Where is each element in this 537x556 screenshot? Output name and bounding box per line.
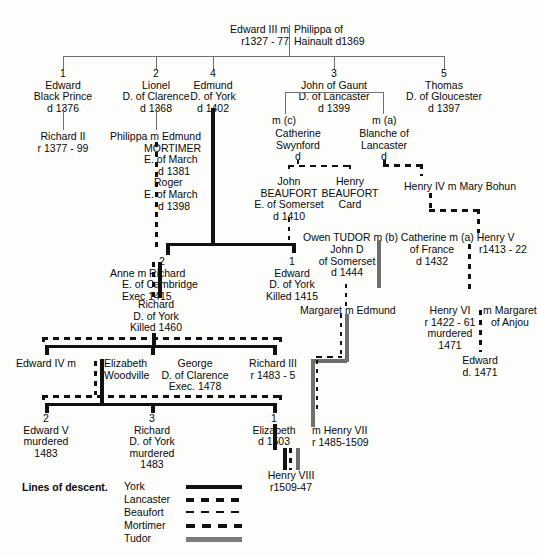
- legend-label-beaufort: Beaufort: [124, 506, 164, 518]
- line-york-edmund-descent: [211, 108, 215, 245]
- legend-title: Lines of descent.: [22, 481, 108, 493]
- node-henry-v: r1413 - 22: [472, 244, 534, 256]
- york-drop-edward-iv: [45, 345, 49, 355]
- line-lancaster-edwardiv-marriage: [94, 361, 97, 395]
- node-edward-iv: Edward IV m: [16, 358, 100, 370]
- node-edward-black-prince-l1: Edward: [45, 79, 81, 91]
- node-henry-vii-l1: m Henry VII: [312, 424, 367, 436]
- beaufort-drop-john: [288, 165, 290, 173]
- node-philippa-mortimer-l7: d 1398: [110, 200, 190, 212]
- root-stem: [289, 49, 290, 57]
- york-stem-richard-to-children: [152, 333, 156, 347]
- node-henry-v-l2: r1413 - 22: [479, 243, 527, 255]
- node-henry-vi: Henry VI r 1422 - 61 murdered 1471: [414, 305, 486, 351]
- line-beaufort-to-somerset: [288, 218, 290, 246]
- legend-sample-york: [186, 485, 242, 489]
- legend-sample-tudor: [186, 537, 242, 542]
- node-henry-beaufort: Henry BEAUFORT Card: [315, 176, 385, 211]
- node-edmund-l2: D. of York: [190, 90, 236, 102]
- node-henry-beaufort-l3: Card: [339, 198, 362, 210]
- line-york-to-henry-viii: [283, 448, 287, 470]
- node-john-of-gaunt-l3: d 1399: [318, 102, 350, 114]
- node-richard-york-1460-l2: D. of York: [133, 310, 179, 322]
- node-henry-vii-l2: r 1485-1509: [312, 436, 369, 448]
- line-lancaster-to-henry-vi: [468, 244, 471, 294]
- node-lionel-l1: Lionel: [142, 79, 170, 91]
- genealogy-chart: Edward III m r1327 - 77 Philippa of Hain…: [0, 0, 537, 556]
- line-beaufort-margaret-down: [340, 314, 342, 358]
- node-edward-york-l1: Edward: [274, 267, 310, 279]
- node-george-l2: D. of Clarence: [161, 369, 228, 381]
- node-john-somerset-l2: of Somerset: [319, 255, 376, 267]
- node-edward-v-l2: murdered: [24, 435, 69, 447]
- root-marriage-line: [289, 25, 290, 49]
- node-henry-iv-mary-bohun: Henry IV m Mary Bohun: [404, 181, 534, 193]
- node-margaret-anjou-l2: of Anjou: [483, 316, 529, 328]
- gaunt-marriage-bar: [285, 92, 383, 93]
- node-catherine-of-france: of France d 1432: [398, 244, 466, 267]
- node-richard-york-1460-l3: Killed 1460: [130, 321, 182, 333]
- node-henry-vi-l4: 1471: [438, 339, 461, 351]
- node-richard-ym-l3: murdered: [130, 447, 175, 459]
- node-john-beaufort-l2: BEAUFORT: [261, 187, 318, 199]
- lancaster-drop-henry-v: [477, 209, 480, 233]
- lancaster-drop-henry-iv: [420, 164, 423, 176]
- node-catherine-swynford: Catherine Swynford d: [262, 128, 334, 163]
- node-henry-viii: Henry VIII r1509-47: [252, 470, 330, 493]
- lancaster-bar-to-henry-iv: [383, 164, 423, 167]
- node-edward-iv-text: Edward IV m: [16, 357, 76, 369]
- legend-sample-mortimer: [186, 524, 242, 528]
- node-philippa-hainault: Philippa of Hainault d1369: [294, 24, 390, 47]
- beaufort-sibling-bar: [288, 165, 351, 167]
- node-richard-iii-l2: r 1483 - 5: [251, 369, 296, 381]
- line-beaufort-turn: [316, 356, 342, 358]
- node-john-duke-somerset: John D of Somerset d 1444: [310, 244, 384, 279]
- node-george-l3: Exec. 1478: [169, 380, 222, 392]
- node-edward-v: 2 Edward V murdered 1483: [12, 413, 80, 459]
- node-henry-beaufort-l2: BEAUFORT: [322, 187, 379, 199]
- node-blanche-lancaster: Blanche of Lancaster d: [348, 128, 420, 163]
- node-edward-black-prince-l2: Black Prince: [34, 90, 92, 102]
- legend-sample-beaufort: [186, 511, 242, 513]
- node-john-somerset-l1: John D: [330, 243, 363, 255]
- legend-sample-lancaster: [186, 498, 242, 502]
- node-edward-1471-l2: d. 1471: [462, 366, 497, 378]
- line-tudor-owen-descent: [377, 240, 381, 288]
- node-richard-york-murdered: 3 Richard D. of York murdered 1483: [112, 413, 192, 471]
- line-mortimer-descent: [155, 142, 158, 250]
- node-catherine-france-l3: d 1432: [416, 255, 448, 267]
- node-george-l1: George: [177, 357, 212, 369]
- node-anne-richard-cambridge: 2 Anne m Richard E. of Cambridge Exec 14…: [110, 256, 228, 302]
- gen2-sibling-bar: [63, 56, 445, 57]
- york-sibling-bar-edwardv-row: [45, 403, 277, 406]
- york-drop-edward: [292, 243, 296, 253]
- node-henry-vi-l2: r 1422 - 61: [425, 316, 476, 328]
- line-york-anne-to-richard: [158, 262, 162, 298]
- sibling-bar-dashed-right-cap: [279, 337, 282, 347]
- node-anne-l1: Anne m Richard: [110, 267, 185, 279]
- legend-label-mortimer: Mortimer: [124, 519, 165, 531]
- node-richard-ii-l1: Richard II: [41, 130, 86, 142]
- node-catherine-swynford-l1: Catherine: [275, 127, 321, 139]
- line-york-edwardiv-marriage: [100, 359, 104, 405]
- york-sibling-bar-anne-edward: [166, 243, 296, 246]
- sibling-bar-dashed-edwardv-row: [42, 395, 282, 398]
- gaunt-marriage-drop-c: [285, 92, 286, 114]
- label-marriage-c-text: m (c): [272, 114, 296, 126]
- node-henry-viii-l1: Henry VIII: [268, 469, 315, 481]
- node-richard-york-1460: Richard D. of York Killed 1460: [104, 299, 208, 334]
- node-philippa-mortimer-l3: E. of March: [110, 153, 198, 165]
- beaufort-drop-henry: [349, 165, 351, 173]
- node-philippa-line1: Philippa of: [294, 23, 343, 35]
- node-edward-v-l3: 1483: [34, 447, 57, 459]
- node-edward-v-l1: Edward V: [23, 424, 69, 436]
- label-marriage-c: m (c): [272, 115, 306, 127]
- node-henry-vii: m Henry VII r 1485-1509: [312, 425, 388, 448]
- node-thomas-l1: Thomas: [425, 79, 463, 91]
- node-philippa-mortimer-l5: Roger: [110, 176, 183, 188]
- line-tudor-henryvii-marriage: [311, 411, 315, 427]
- node-philippa-line2: Hainault d1369: [294, 35, 365, 47]
- line-somerset-to-margaret: [345, 284, 347, 306]
- node-blanche-l2: Lancaster: [361, 139, 407, 151]
- node-edward-iii: Edward III m r1327 - 77: [205, 24, 289, 47]
